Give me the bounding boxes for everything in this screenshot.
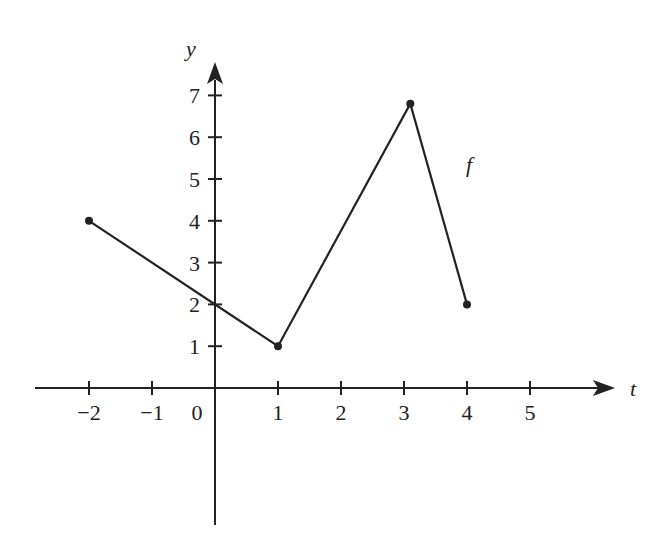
data-point <box>85 217 93 225</box>
data-point <box>274 342 282 350</box>
x-tick-label: 0 <box>192 400 203 425</box>
y-tick-label: 2 <box>189 292 200 317</box>
x-tick-label: 1 <box>273 400 284 425</box>
x-tick-label: −1 <box>140 400 163 425</box>
plot-area: ty−2−10123451234567f <box>0 0 667 558</box>
y-tick-label: 4 <box>189 209 200 234</box>
x-tick-label: 5 <box>525 400 536 425</box>
data-point <box>463 300 471 308</box>
data-point <box>406 100 414 108</box>
x-tick-label: −2 <box>77 400 100 425</box>
x-tick-label: 3 <box>399 400 410 425</box>
chart: ty−2−10123451234567f <box>0 0 667 558</box>
y-tick-label: 7 <box>189 83 200 108</box>
function-label: f <box>466 152 475 177</box>
series-line-f <box>89 104 467 346</box>
y-tick-label: 1 <box>189 334 200 359</box>
x-tick-label: 2 <box>336 400 347 425</box>
y-tick-label: 6 <box>189 125 200 150</box>
y-axis-label: y <box>184 36 196 61</box>
y-tick-label: 5 <box>189 167 200 192</box>
x-axis-label: t <box>630 376 637 401</box>
x-tick-label: 4 <box>462 400 473 425</box>
y-tick-label: 3 <box>189 251 200 276</box>
